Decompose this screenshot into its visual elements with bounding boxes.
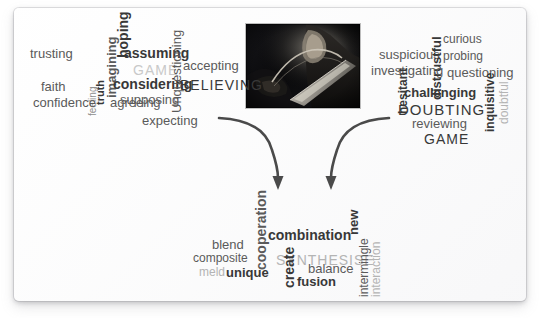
cloud-word: cooperation bbox=[254, 190, 268, 270]
cloud-word: faith bbox=[41, 80, 66, 93]
cloud-word: reviewing bbox=[412, 117, 467, 130]
cloud-word: new bbox=[347, 210, 360, 235]
cloud-word: curious bbox=[443, 33, 482, 45]
cloud-word: create bbox=[282, 247, 296, 288]
cloud-word: GAME bbox=[424, 132, 469, 146]
cloud-word: DOUBTING bbox=[398, 102, 485, 117]
cloud-word: composite bbox=[193, 252, 248, 264]
cloud-word: combination bbox=[268, 228, 351, 242]
cloud-word: fusion bbox=[297, 275, 336, 288]
cloud-word: interaction bbox=[370, 242, 382, 297]
cloud-word: unique bbox=[226, 266, 269, 279]
cloud-word: expecting bbox=[142, 114, 198, 127]
cloud-word: agreeing bbox=[110, 96, 161, 109]
cloud-word: BELIEVING bbox=[180, 78, 263, 92]
diagram-canvas: trustinghopingimaginingtruthfeelingassum… bbox=[0, 0, 544, 318]
cloud-word: doubtful bbox=[498, 81, 510, 124]
cloud-word: confidence bbox=[33, 96, 96, 109]
cloud-word: inquisitive bbox=[484, 73, 496, 132]
cloud-word: trusting bbox=[30, 47, 73, 60]
cloud-word: accepting bbox=[183, 59, 239, 72]
cloud-word: blend bbox=[212, 238, 244, 251]
centre-photograph bbox=[246, 24, 360, 108]
cloud-word: meld bbox=[199, 266, 225, 278]
cloud-word: challenging bbox=[404, 86, 476, 99]
cloud-word: Unquestioning bbox=[170, 30, 183, 113]
cloud-word: questioning bbox=[447, 66, 514, 79]
cloud-word: probing bbox=[443, 50, 483, 62]
